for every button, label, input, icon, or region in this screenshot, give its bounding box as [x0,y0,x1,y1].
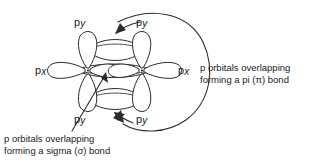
label-py-bottom-left: py [74,113,85,127]
left-atom-nucleus [87,69,89,71]
right-px-inner-lobe [108,64,139,77]
orbital-overlap-diagram: py py py py px px p orbitals overlapping… [0,0,310,168]
sigma-bond-annotation: p orbitals overlapping forming a sigma (… [4,133,110,156]
label-py-top-right: py [136,16,147,30]
label-py-top-left: py [74,16,85,30]
right-py-up-lobe [132,32,150,69]
right-py-down-lobe [132,74,150,112]
label-py-bottom-right: py [136,113,147,127]
label-px-left: px [35,64,46,78]
pi-top-arrowhead [115,23,126,34]
label-px-right: px [178,64,189,78]
left-py-up-lobe [78,32,96,69]
left-px-outer-lobe [48,62,86,78]
right-atom-nucleus [141,69,143,71]
right-atom-orbitals [108,32,181,112]
pi-bond-annotation: p orbitals overlapping forming a pi (π) … [200,62,290,85]
right-px-outer-lobe [144,62,182,78]
